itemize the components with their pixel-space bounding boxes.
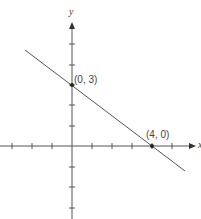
point-x-intercept [150,144,154,148]
x-axis-arrow-icon [189,143,196,149]
y-axis-label: y [69,6,73,17]
linear-function-line [25,50,185,171]
y-axis-arrow-icon [69,22,75,29]
x-axis-label: x [198,139,201,150]
coordinate-plane [0,0,201,219]
point-label-x-intercept: (4, 0) [146,129,169,140]
point-label-y-intercept: (0, 3) [74,74,97,85]
